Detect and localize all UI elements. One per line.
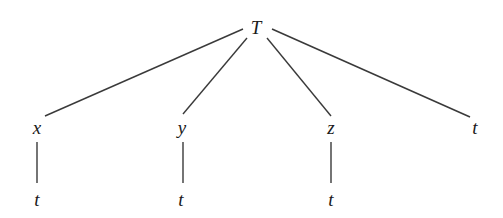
node-root: T — [251, 17, 263, 38]
node-z: z — [326, 117, 335, 138]
node-t-leaf: t — [472, 117, 478, 138]
edge-T-t — [272, 29, 470, 117]
edge-T-y — [183, 38, 247, 114]
edge-T-x — [45, 29, 243, 116]
tree-diagram: T x y z t t t t — [0, 0, 503, 218]
node-y-t: t — [178, 189, 184, 210]
node-x-t: t — [34, 189, 40, 210]
node-x: x — [32, 117, 42, 138]
node-y: y — [176, 117, 187, 138]
edge-T-z — [267, 38, 331, 116]
node-z-t: t — [328, 189, 334, 210]
